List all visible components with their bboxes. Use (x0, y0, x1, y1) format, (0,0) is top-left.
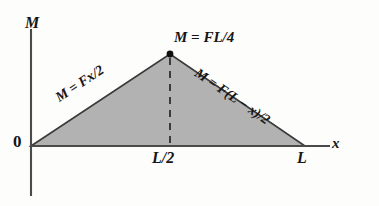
tick-label-right-end: L (297, 150, 307, 166)
m-axis-label: M (25, 15, 39, 31)
tick-label-midspan: L/2 (152, 150, 174, 166)
moment-area-shape (31, 54, 305, 146)
bending-moment-figure: M 0 x L/2 L M = FL/4 M = Fx/2 M = F(L − … (0, 0, 379, 206)
x-axis-label: x (332, 136, 340, 151)
apex-value-annotation: M = FL/4 (174, 30, 234, 45)
origin-label: 0 (13, 133, 22, 150)
apex-point-marker (167, 51, 174, 58)
